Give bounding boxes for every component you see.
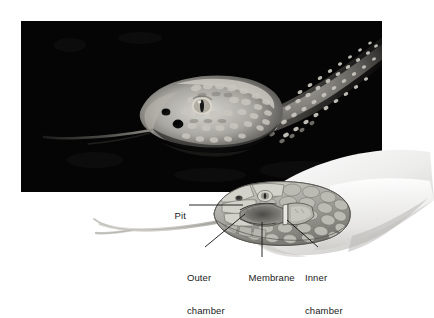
label-outer-chamber-line1: Outer (187, 272, 225, 283)
label-membrane: Membrane (243, 261, 295, 283)
label-outer-chamber: Outer chamber (187, 250, 225, 318)
label-inner-chamber-line1: Inner (305, 272, 343, 283)
label-pit-text: Pit (174, 210, 185, 221)
label-outer-chamber-line2: chamber (187, 305, 225, 316)
label-inner-chamber: Inner chamber (305, 250, 343, 318)
pit-organ-cutaway (240, 203, 314, 226)
membrane-shape (283, 204, 288, 225)
label-inner-chamber-line2: chamber (305, 305, 343, 316)
label-pit: Pit (169, 199, 186, 221)
label-membrane-text: Membrane (248, 272, 294, 283)
